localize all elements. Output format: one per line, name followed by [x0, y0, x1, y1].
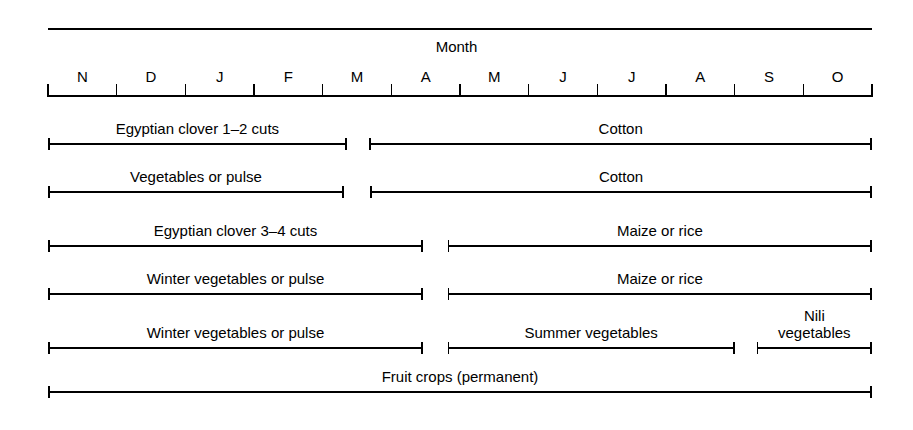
bar-stem	[48, 191, 344, 193]
bar-end-cap	[345, 138, 347, 150]
crop-period-bar	[448, 288, 872, 300]
month-tick-label: J	[559, 68, 567, 85]
crop-period-bar	[448, 240, 872, 252]
bar-stem	[448, 293, 872, 295]
month-tick-label: J	[216, 68, 224, 85]
bar-end-cap	[342, 186, 344, 198]
crop-period-bar	[48, 186, 344, 198]
crop-period-label: Cotton	[599, 168, 643, 185]
crop-period-label: Egyptian clover 1–2 cuts	[116, 120, 279, 137]
crop-period-label: Egyptian clover 3–4 cuts	[154, 222, 317, 239]
bar-stem	[369, 143, 872, 145]
bar-end-cap	[870, 386, 872, 398]
crop-period-label: Winter vegetables or pulse	[147, 270, 325, 287]
bar-end-cap	[870, 186, 872, 198]
bar-end-cap	[870, 342, 872, 354]
top-divider-rule	[48, 28, 872, 30]
axis-tick	[734, 84, 736, 97]
axis-tick	[47, 84, 49, 97]
month-tick-label: O	[832, 68, 844, 85]
bar-stem	[48, 347, 423, 349]
crop-period-label: Fruit crops (permanent)	[382, 368, 539, 385]
crop-period-label: Cotton	[599, 120, 643, 137]
month-tick-label: M	[488, 68, 501, 85]
axis-tick	[459, 84, 461, 97]
axis-tick	[665, 84, 667, 97]
bar-end-cap	[421, 240, 423, 252]
bar-stem	[757, 347, 872, 349]
crop-period-label: Winter vegetables or pulse	[147, 324, 325, 341]
crop-period-bar	[448, 342, 735, 354]
bar-stem	[48, 143, 347, 145]
crop-period-label: Maize or rice	[617, 270, 703, 287]
bar-stem	[370, 191, 872, 193]
crop-period-bar	[48, 342, 423, 354]
crop-period-bar	[48, 240, 423, 252]
crop-period-label: Maize or rice	[617, 222, 703, 239]
crop-rotation-calendar-diagram: Month NDJFMAMJJASO Egyptian clover 1–2 c…	[0, 0, 913, 430]
bar-end-cap	[870, 138, 872, 150]
axis-tick	[871, 84, 873, 97]
bar-end-cap	[870, 240, 872, 252]
bar-stem	[48, 391, 872, 393]
bar-stem	[48, 245, 423, 247]
crop-period-bar	[48, 386, 872, 398]
month-tick-label: D	[146, 68, 157, 85]
bar-end-cap	[421, 288, 423, 300]
axis-tick	[185, 84, 187, 97]
bar-stem	[448, 245, 872, 247]
crop-period-bar	[370, 186, 872, 198]
axis-tick	[253, 84, 255, 97]
month-tick-label: A	[421, 68, 431, 85]
month-tick-label: F	[284, 68, 293, 85]
crop-period-bar	[757, 342, 872, 354]
axis-tick	[528, 84, 530, 97]
month-tick-label: N	[77, 68, 88, 85]
month-tick-label: A	[695, 68, 705, 85]
axis-tick	[116, 84, 118, 97]
axis-tick	[597, 84, 599, 97]
month-tick-label: M	[351, 68, 364, 85]
crop-period-label: Vegetables or pulse	[130, 168, 262, 185]
axis-tick	[322, 84, 324, 97]
axis-tick	[391, 84, 393, 97]
bar-end-cap	[733, 342, 735, 354]
crop-period-bar	[48, 138, 347, 150]
bar-stem	[448, 347, 735, 349]
month-tick-label: S	[764, 68, 774, 85]
crop-period-label: Summer vegetables	[524, 324, 657, 341]
axis-title: Month	[0, 38, 913, 55]
crop-period-bar	[369, 138, 872, 150]
bar-end-cap	[421, 342, 423, 354]
bar-end-cap	[870, 288, 872, 300]
crop-period-bar	[48, 288, 423, 300]
bar-stem	[48, 293, 423, 295]
axis-tick	[803, 84, 805, 97]
month-tick-label: J	[628, 68, 636, 85]
crop-period-label: Nili vegetables	[778, 307, 851, 341]
